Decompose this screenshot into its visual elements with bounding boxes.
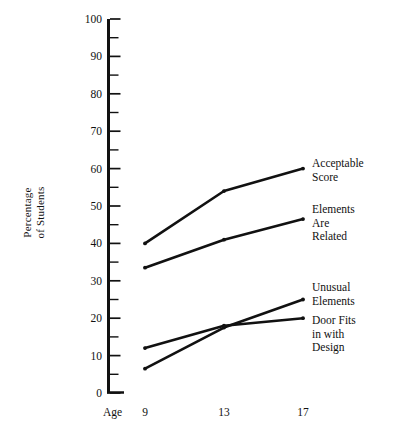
data-point [301,298,305,302]
y-tick-label-90: 90 [64,50,102,62]
x-tick-label-13: 13 [209,406,239,418]
y-tick-label-50: 50 [64,200,102,212]
y-tick-label-60: 60 [64,163,102,175]
series-line-0 [145,169,303,244]
data-points-group [143,167,305,371]
data-point [143,367,147,371]
data-point [222,324,226,328]
series-label-acceptable-score: Acceptable Score [312,157,364,184]
series-line-2 [145,300,303,369]
line-chart: Percentage of Students 100 90 80 70 60 5… [0,0,396,444]
data-point [143,346,147,350]
series-label-door-fits: Door Fits in with Design [312,314,356,355]
x-axis-title: Age [103,406,122,418]
x-tick-label-9: 9 [130,406,160,418]
y-tick-label-10: 10 [64,350,102,362]
data-point [143,266,147,270]
data-point [143,242,147,246]
data-point [222,189,226,193]
series-label-elements-are-related: Elements Are Related [312,203,355,244]
data-point [222,238,226,242]
y-axis-title: Percentage of Students [21,158,46,268]
y-tick-label-30: 30 [64,275,102,287]
series-line-3 [145,318,303,348]
data-point [301,316,305,320]
x-tick-label-17: 17 [288,406,318,418]
y-tick-label-80: 80 [64,88,102,100]
data-point [301,217,305,221]
y-tick-label-40: 40 [64,237,102,249]
y-tick-label-0: 0 [64,387,102,399]
series-label-unusual-elements: Unusual Elements [312,281,355,308]
y-tick-label-100: 100 [64,13,102,25]
data-series-group [145,169,303,369]
y-tick-label-20: 20 [64,312,102,324]
y-tick-label-70: 70 [64,125,102,137]
data-point [301,167,305,171]
